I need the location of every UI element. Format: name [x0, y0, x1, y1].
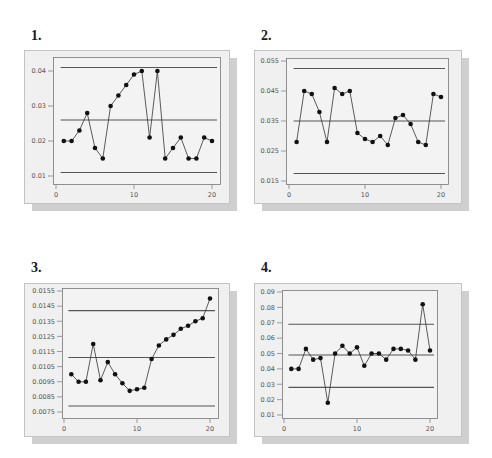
data-point	[363, 137, 368, 142]
y-tick-label: 0.0075	[32, 408, 55, 416]
y-tick-label: 0.08	[261, 304, 275, 312]
y-tick-label: 0.0105	[32, 363, 55, 371]
data-point	[304, 347, 309, 352]
data-point	[62, 139, 67, 144]
plot-area	[63, 289, 219, 419]
x-tick-label: 0	[62, 425, 66, 433]
data-point	[362, 364, 367, 369]
data-point	[377, 351, 382, 356]
data-point	[424, 143, 429, 148]
data-point	[200, 316, 205, 321]
y-tick-label: 0.01	[261, 411, 275, 419]
y-tick-label: 0.0115	[32, 348, 55, 356]
x-tick-label: 0	[54, 191, 58, 199]
data-point	[149, 357, 154, 362]
data-point	[408, 122, 413, 127]
data-point	[155, 69, 160, 74]
data-point	[69, 372, 74, 377]
data-point	[124, 83, 129, 88]
y-tick-label: 0.0155	[32, 287, 55, 295]
y-tick-label: 0.02	[32, 137, 46, 145]
data-point	[193, 319, 198, 324]
y-tick-label: 0.0145	[32, 302, 55, 310]
data-point	[431, 92, 436, 97]
x-tick-label: 0	[287, 191, 291, 199]
data-point	[439, 95, 444, 100]
x-tick-label: 20	[437, 191, 445, 199]
data-point	[84, 379, 89, 384]
data-point	[318, 356, 323, 361]
data-point	[171, 146, 176, 151]
data-point	[340, 92, 345, 97]
data-point	[302, 89, 307, 94]
data-point	[296, 367, 301, 372]
data-point	[401, 113, 406, 118]
y-tick-label: 0.045	[260, 87, 279, 95]
data-point	[406, 348, 411, 353]
y-tick-label: 0.025	[260, 147, 279, 155]
data-point	[310, 92, 315, 97]
y-tick-label: 0.05	[261, 350, 275, 358]
data-point	[384, 357, 389, 362]
x-tick-label: 10	[130, 191, 138, 199]
data-point	[378, 134, 383, 139]
data-point	[164, 337, 169, 342]
data-point	[186, 156, 191, 161]
y-tick-label: 0.07	[261, 319, 275, 327]
data-point	[317, 110, 322, 115]
data-point	[163, 156, 168, 161]
x-tick-label: 20	[208, 191, 216, 199]
y-tick-label: 0.0095	[32, 378, 55, 386]
control-chart-1: 0.010.020.030.0401020	[25, 51, 238, 212]
x-tick-label: 10	[353, 425, 361, 433]
data-point	[325, 140, 330, 145]
data-point	[208, 296, 213, 301]
data-point	[399, 347, 404, 352]
data-point	[85, 111, 90, 116]
data-point	[369, 351, 374, 356]
y-tick-label: 0.03	[261, 381, 275, 389]
x-tick-label: 0	[282, 425, 286, 433]
y-tick-label: 0.02	[261, 396, 275, 404]
data-point	[393, 116, 398, 121]
data-point	[108, 104, 113, 109]
data-point	[106, 360, 111, 365]
plot-area	[54, 58, 221, 185]
data-point	[127, 389, 132, 394]
data-point	[355, 345, 360, 350]
x-tick-label: 20	[426, 425, 434, 433]
data-point	[98, 378, 103, 383]
data-point	[370, 140, 375, 145]
data-point	[116, 93, 121, 98]
control-chart-2: 0.0150.0250.0350.0450.05501020	[255, 51, 470, 212]
data-point	[348, 89, 353, 94]
data-point	[91, 342, 96, 347]
data-point	[210, 139, 215, 144]
y-tick-label: 0.0085	[32, 393, 55, 401]
y-tick-label: 0.0135	[32, 318, 55, 326]
data-point	[147, 135, 152, 140]
data-point	[76, 379, 81, 384]
data-point	[416, 140, 421, 145]
data-point	[171, 333, 176, 338]
y-tick-label: 0.035	[260, 117, 279, 125]
data-point	[77, 128, 82, 133]
data-point	[355, 131, 360, 136]
data-point	[179, 327, 184, 332]
data-point	[428, 348, 433, 353]
y-tick-label: 0.015	[260, 177, 279, 185]
data-point	[289, 367, 294, 372]
data-point	[132, 72, 137, 77]
data-point	[340, 344, 345, 349]
y-tick-label: 0.04	[32, 67, 46, 75]
data-point	[135, 387, 140, 392]
y-tick-label: 0.04	[261, 365, 275, 373]
y-tick-label: 0.03	[32, 102, 46, 110]
data-point	[391, 347, 396, 352]
data-point	[69, 139, 74, 144]
data-point	[413, 357, 418, 362]
data-point	[202, 135, 207, 140]
charts-canvas: 0.010.020.030.0401020 0.0150.0250.0350.0…	[0, 0, 492, 458]
x-tick-label: 10	[133, 425, 141, 433]
data-point	[140, 69, 145, 74]
